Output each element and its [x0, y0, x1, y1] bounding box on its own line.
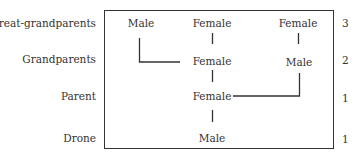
count-parent: 1 — [342, 92, 349, 104]
count-drone: 1 — [342, 133, 349, 145]
node-ggp-female-2: Female — [279, 17, 318, 29]
node-gp-female: Female — [193, 55, 232, 67]
node-parent-female: Female — [193, 90, 232, 102]
count-grandparents: 2 — [342, 54, 349, 66]
edge-ggp-male-to-gp-female — [140, 38, 181, 62]
node-ggp-female-1: Female — [193, 17, 232, 29]
edge-gp-male-to-parent — [233, 73, 300, 96]
node-drone-male: Male — [199, 132, 226, 144]
node-ggp-male: Male — [128, 17, 155, 29]
node-gp-male: Male — [286, 56, 313, 68]
count-great-grandparents: 3 — [342, 17, 349, 29]
